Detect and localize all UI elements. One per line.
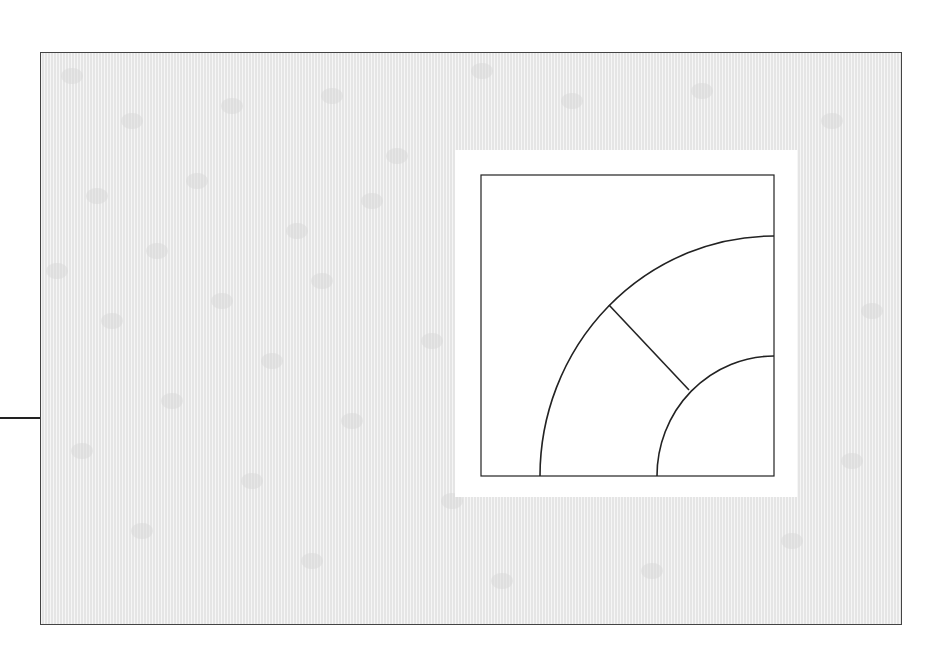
- quarter-circle-diagram: [0, 0, 940, 656]
- radial-divider-line: [609, 305, 689, 390]
